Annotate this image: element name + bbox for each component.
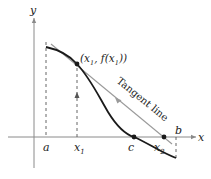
x-axis-label: x [198, 131, 205, 144]
x1-up-arrow-icon [75, 92, 80, 98]
point-x1-fx1 [75, 62, 80, 67]
tangent-line-label: Tangent line [115, 75, 171, 123]
tangent-arrow-icon [115, 98, 122, 104]
point-label: (x1, f(x1)) [80, 52, 127, 67]
label-a: a [43, 141, 50, 154]
point-c-root [132, 135, 137, 140]
label-x1: x1 [74, 141, 85, 156]
label-x2: x2 [154, 141, 165, 156]
point-x2 [162, 135, 167, 140]
label-c: c [128, 141, 134, 154]
diagram-canvas: y x a x1 c x2 b (x1, f(x1)) Tangent line [0, 0, 211, 179]
newton-method-diagram: y x a x1 c x2 b (x1, f(x1)) Tangent line [0, 0, 211, 179]
y-axis-label: y [29, 4, 37, 17]
label-b: b [175, 124, 182, 137]
